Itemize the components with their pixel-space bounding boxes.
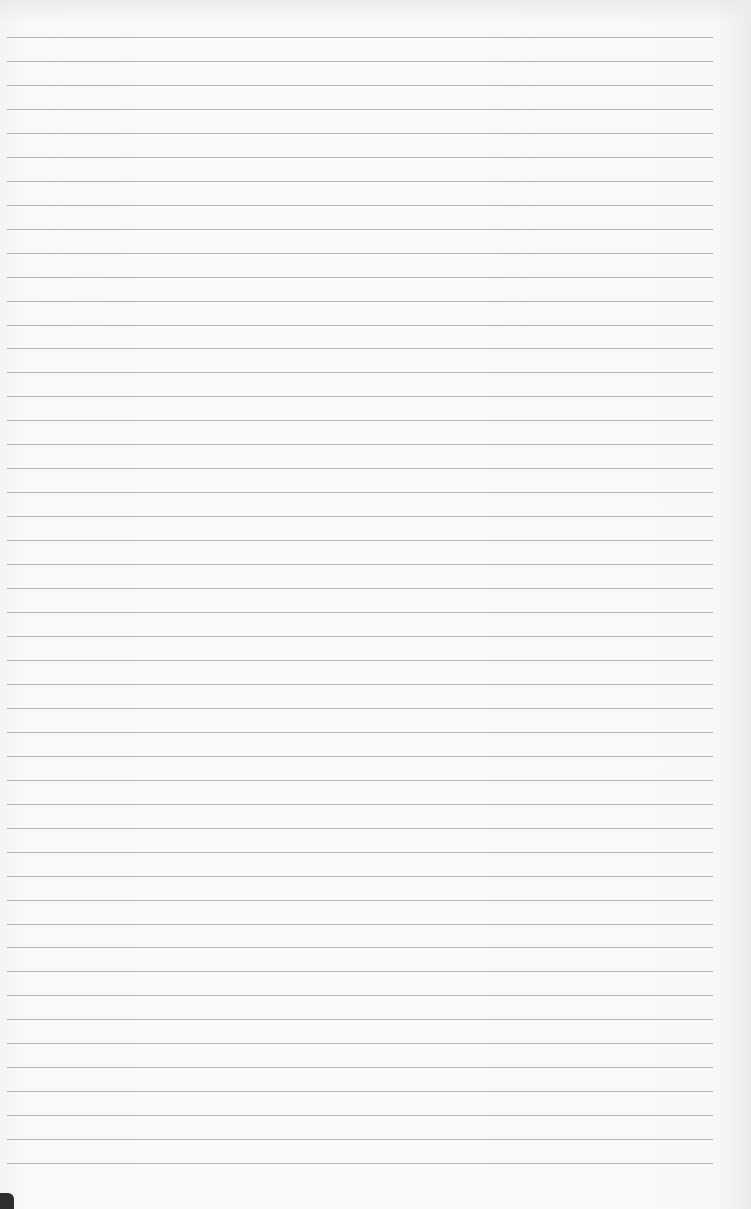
ruled-line bbox=[7, 133, 713, 134]
ruled-line bbox=[7, 396, 713, 397]
ruled-line bbox=[7, 1115, 713, 1116]
scan-top-shadow bbox=[0, 0, 751, 22]
ruled-line bbox=[7, 588, 713, 589]
ruled-line bbox=[7, 444, 713, 445]
ruled-line bbox=[7, 660, 713, 661]
ruled-line bbox=[7, 852, 713, 853]
ruled-line bbox=[7, 420, 713, 421]
ruled-line bbox=[7, 253, 713, 254]
ruled-line bbox=[7, 540, 713, 541]
ruled-line bbox=[7, 804, 713, 805]
ruled-line bbox=[7, 564, 713, 565]
ruled-line bbox=[7, 612, 713, 613]
ruled-line bbox=[7, 181, 713, 182]
ruled-line bbox=[7, 468, 713, 469]
ruled-line bbox=[7, 277, 713, 278]
ruled-line bbox=[7, 1163, 713, 1164]
ruled-line bbox=[7, 900, 713, 901]
scan-corner-mark bbox=[0, 1193, 14, 1209]
ruled-line bbox=[7, 325, 713, 326]
ruled-line bbox=[7, 37, 713, 38]
ruled-line bbox=[7, 1067, 713, 1068]
ruled-line bbox=[7, 205, 713, 206]
ruled-line bbox=[7, 157, 713, 158]
ruled-line bbox=[7, 61, 713, 62]
ruled-line bbox=[7, 636, 713, 637]
ruled-line bbox=[7, 756, 713, 757]
ruled-line bbox=[7, 971, 713, 972]
ruled-line bbox=[7, 708, 713, 709]
ruled-line bbox=[7, 924, 713, 925]
ruled-line bbox=[7, 876, 713, 877]
ruled-line bbox=[7, 947, 713, 948]
ruled-line bbox=[7, 85, 713, 86]
ruled-line bbox=[7, 1019, 713, 1020]
ruled-line bbox=[7, 301, 713, 302]
ruled-line bbox=[7, 828, 713, 829]
ruled-line bbox=[7, 995, 713, 996]
ruled-line bbox=[7, 684, 713, 685]
ruled-line bbox=[7, 348, 713, 349]
ruled-line bbox=[7, 780, 713, 781]
ruled-line bbox=[7, 1139, 713, 1140]
ruled-line bbox=[7, 109, 713, 110]
ruled-line bbox=[7, 516, 713, 517]
ruled-line bbox=[7, 229, 713, 230]
ruled-line bbox=[7, 1091, 713, 1092]
ruled-line bbox=[7, 732, 713, 733]
lined-paper-page bbox=[0, 0, 751, 1209]
ruled-line bbox=[7, 492, 713, 493]
ruled-line bbox=[7, 372, 713, 373]
ruled-line bbox=[7, 1043, 713, 1044]
